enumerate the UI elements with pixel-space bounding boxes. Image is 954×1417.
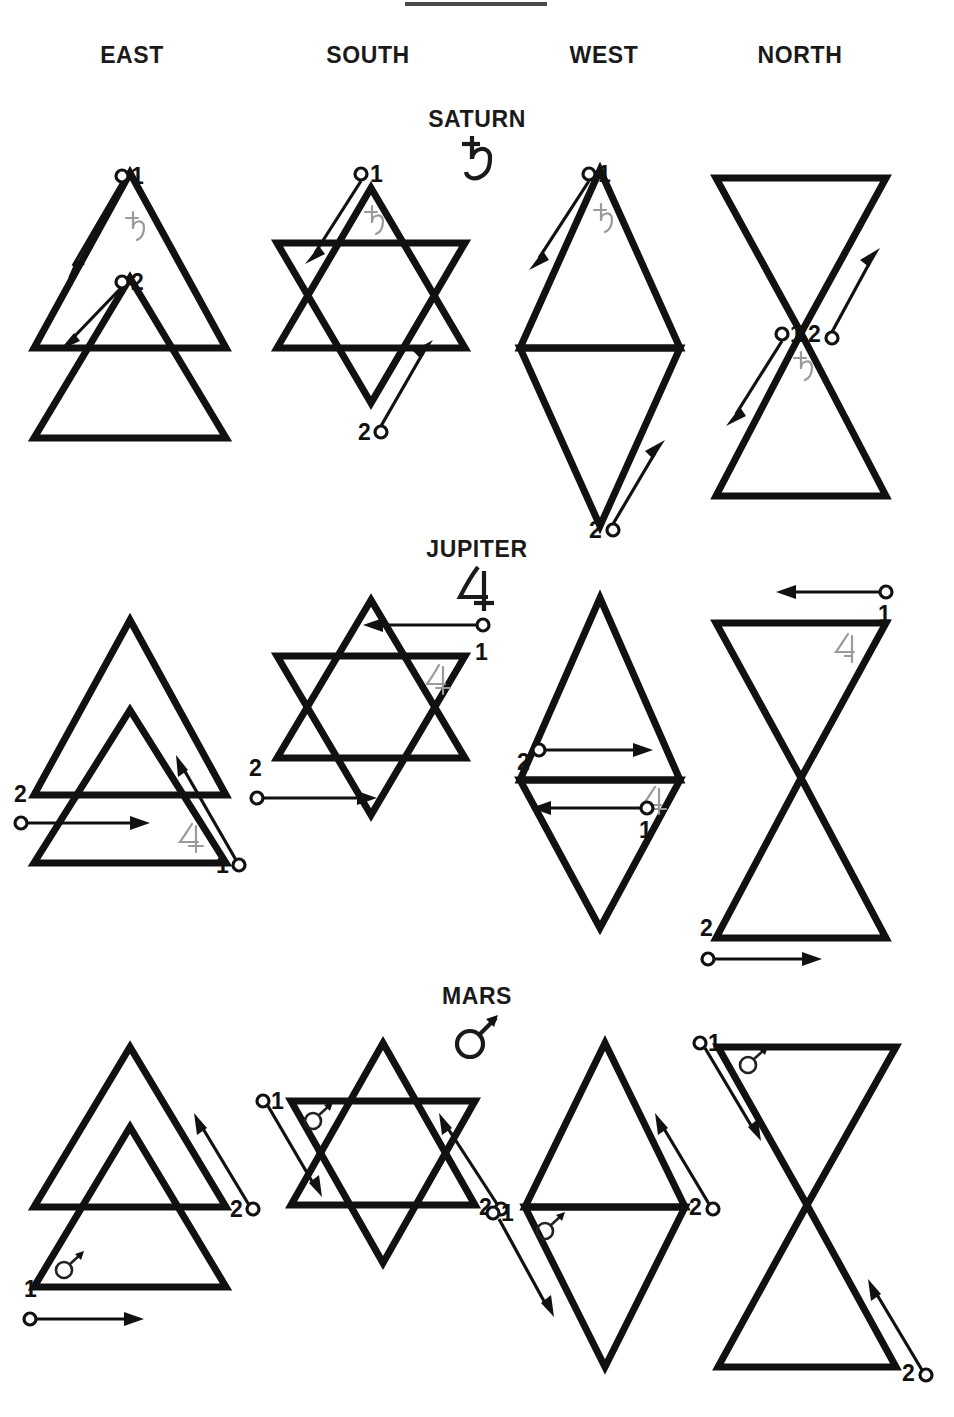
figure-jupiter-east[interactable]: 2 1 [8,580,268,910]
stroke-label-2: 2 [230,1196,243,1222]
planet-name-saturn: SATURN [347,108,607,131]
stroke-label-2: 2 [902,1360,915,1386]
stroke-label-1: 1 [271,1088,284,1114]
figure-saturn-south[interactable]: 1 2 [243,148,498,468]
stroke-label-2: 2 [14,781,27,807]
stroke-label-2: 2 [517,749,530,775]
stroke-label-2: 2 [808,321,821,347]
stroke-label-1: 1 [24,1276,37,1302]
planet-name-mars: MARS [347,985,607,1008]
saturn-symbol-small-icon [594,204,612,232]
figure-row-jupiter: 2 1 1 2 [0,580,954,980]
stroke-label-2: 2 [589,517,602,543]
figure-jupiter-south[interactable]: 1 2 [243,580,513,900]
figure-mars-east[interactable]: 1 2 [8,1015,268,1345]
stroke-label-1: 1 [370,161,383,187]
column-header-north: NORTH [680,42,920,69]
stroke-label-1: 1 [598,161,611,187]
stroke-label-2: 2 [249,755,262,781]
figure-mars-south[interactable]: 1 2 [243,1015,523,1345]
stroke-label-2: 2 [358,419,371,445]
stroke-label-1: 1 [501,1200,514,1226]
stroke-label-1: 1 [790,321,803,347]
title-underline-rule [405,2,547,6]
stroke-label-1: 1 [131,163,144,189]
figure-jupiter-north[interactable]: 1 2 [690,580,940,975]
saturn-symbol-small-icon [126,212,144,240]
jupiter-symbol-small-icon [836,634,854,662]
stroke-label-1: 1 [216,852,229,878]
figure-row-mars: 1 2 1 2 [0,1015,954,1415]
stroke-label-1: 1 [708,1030,721,1056]
figure-mars-north[interactable]: 1 2 [690,1015,950,1405]
stroke-label-2: 2 [700,915,713,941]
stroke-label-1: 1 [639,817,652,843]
quarter-header-row: EAST SOUTH WEST NORTH [0,42,954,76]
mars-symbol-small-icon [305,1102,333,1129]
figure-row-saturn: 1 2 1 2 [0,148,954,548]
figure-saturn-west[interactable]: 1 2 [487,148,717,548]
jupiter-symbol-small-icon [180,824,203,852]
figure-saturn-east[interactable]: 1 2 [8,148,258,468]
stroke-label-2: 2 [131,269,144,295]
column-header-east: EAST [12,42,252,69]
figure-saturn-north[interactable]: 1 2 [690,148,940,523]
stroke-label-1: 1 [878,601,891,627]
column-header-south: SOUTH [248,42,488,69]
mars-symbol-small-icon [56,1251,84,1278]
